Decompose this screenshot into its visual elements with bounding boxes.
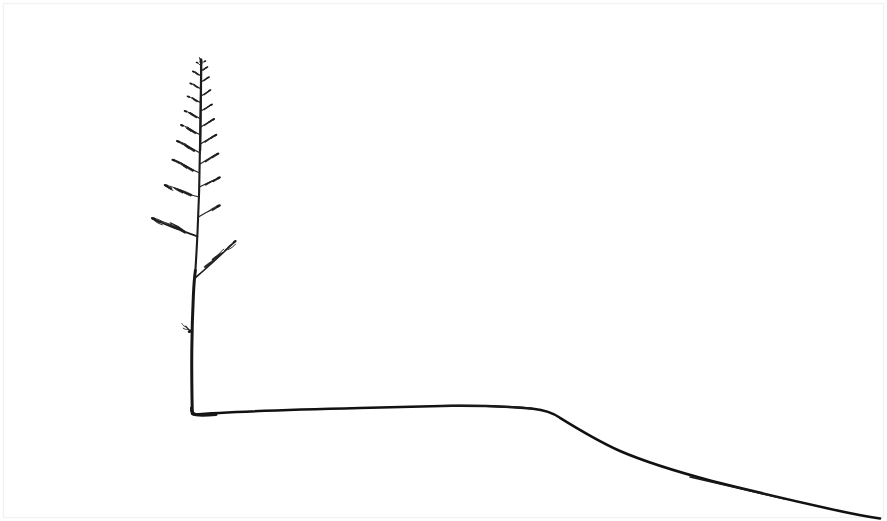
panicle-branch-r5 [201,103,213,111]
branch-lower-left [151,217,198,237]
panicle-branch-l2 [171,158,200,173]
panicle-branch-l4 [180,124,201,135]
panicle-branch-r7 [201,76,210,82]
panicle-branch-l6 [186,95,201,103]
panicle-branch-l7 [189,82,201,89]
panicle-branch-r8 [201,66,209,71]
panicle-branch-l1 [163,184,199,197]
panicle-branch-r6 [201,89,212,96]
ground-line [194,406,881,519]
drawing-canvas [0,0,887,521]
branch-mid-right-lower [198,204,221,217]
plant [151,57,238,415]
panicle [163,57,221,197]
panicle-branch-l5 [183,109,200,119]
main-stem [192,271,196,414]
ground-line-shadow [690,477,785,499]
panicle-branch-r1 [199,176,221,187]
panicle-branch-l3 [176,140,201,153]
artboard: slender grass stem with feathery panicle… [0,0,887,521]
stem-base-foot [191,408,216,415]
branch-lower-right [196,239,237,277]
panicle-branch-l8 [192,70,202,76]
panicle-branch-r2 [200,152,220,164]
page-border [4,4,884,518]
panicle-axis-thickening [200,63,201,150]
panicle-branch-r4 [201,118,216,127]
panicle-branch-r3 [200,133,217,144]
